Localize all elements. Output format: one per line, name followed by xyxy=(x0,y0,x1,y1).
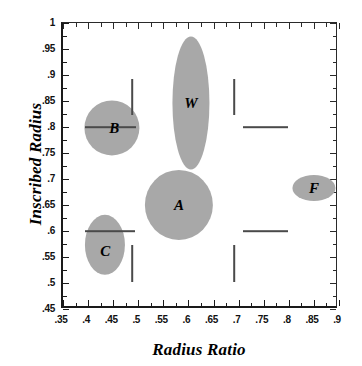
y-axis-minor-tick xyxy=(63,244,67,245)
x-axis-minor-tick xyxy=(126,303,127,307)
x-axis-tick xyxy=(214,23,215,29)
y-axis-tick-label: .8 xyxy=(47,121,55,132)
vertical-range-bar xyxy=(131,245,133,282)
x-axis-minor-tick xyxy=(201,23,202,27)
x-axis-tick-label: .7 xyxy=(233,314,241,325)
x-axis-tick xyxy=(63,300,64,306)
x-axis-tick xyxy=(188,23,189,29)
x-axis-tick xyxy=(239,300,240,306)
y-axis-tick xyxy=(330,153,336,154)
x-axis-tick-label: .4 xyxy=(82,314,90,325)
x-axis-tick xyxy=(214,300,215,306)
y-axis-tick xyxy=(63,75,69,76)
y-axis-tick-label: .5 xyxy=(47,277,55,288)
x-axis-tick-label: .55 xyxy=(155,314,168,325)
x-axis-minor-tick xyxy=(176,23,177,27)
y-axis-tick xyxy=(330,309,336,310)
y-axis-tick xyxy=(63,101,69,102)
vertical-range-bar xyxy=(233,245,235,282)
data-region-label-a: A xyxy=(174,197,184,214)
x-axis-tick xyxy=(264,300,265,306)
y-axis-minor-tick xyxy=(63,140,67,141)
x-axis-minor-tick xyxy=(276,303,277,307)
x-axis-tick-label: .5 xyxy=(132,314,140,325)
y-axis-minor-tick xyxy=(333,36,337,37)
y-axis-minor-tick xyxy=(63,62,67,63)
y-axis-minor-tick xyxy=(63,218,67,219)
x-axis-tick-label: .85 xyxy=(305,314,318,325)
y-axis-tick xyxy=(330,283,336,284)
y-axis-tick xyxy=(63,205,69,206)
y-axis-tick-label: .95 xyxy=(42,43,55,54)
y-axis-tick xyxy=(63,153,69,154)
y-axis-tick xyxy=(63,283,69,284)
data-region-label-c: C xyxy=(100,243,110,260)
y-axis-tick-label: .6 xyxy=(47,225,55,236)
y-axis-minor-tick xyxy=(333,296,337,297)
x-axis-tick xyxy=(314,300,315,306)
y-axis-minor-tick xyxy=(333,166,337,167)
y-axis-tick xyxy=(63,231,69,232)
x-axis-minor-tick xyxy=(176,303,177,307)
x-axis-tick xyxy=(239,23,240,29)
x-axis-minor-tick xyxy=(251,303,252,307)
x-axis-minor-tick xyxy=(151,303,152,307)
horizontal-range-bar xyxy=(85,230,135,232)
y-axis-minor-tick xyxy=(333,62,337,63)
x-axis-minor-tick xyxy=(226,303,227,307)
y-axis-tick xyxy=(63,257,69,258)
x-axis-minor-tick xyxy=(301,23,302,27)
y-axis-tick xyxy=(330,49,336,50)
y-axis-tick xyxy=(330,127,336,128)
x-axis-tick xyxy=(163,300,164,306)
y-axis-tick xyxy=(63,127,69,128)
x-axis-minor-tick xyxy=(301,303,302,307)
x-axis-minor-tick xyxy=(126,23,127,27)
x-axis-minor-tick xyxy=(326,303,327,307)
x-axis-tick xyxy=(339,300,340,306)
x-axis-minor-tick xyxy=(101,23,102,27)
x-axis-minor-tick xyxy=(76,303,77,307)
y-axis-tick xyxy=(63,179,69,180)
data-region-label-b: B xyxy=(109,119,119,136)
x-axis-tick xyxy=(188,300,189,306)
y-axis-minor-tick xyxy=(63,296,67,297)
x-axis-tick xyxy=(88,23,89,29)
vertical-range-bar xyxy=(233,79,235,114)
y-axis-minor-tick xyxy=(333,140,337,141)
x-axis-minor-tick xyxy=(226,23,227,27)
y-axis-tick xyxy=(330,257,336,258)
x-axis-tick-label: .6 xyxy=(183,314,191,325)
x-axis-tick xyxy=(289,300,290,306)
x-axis-tick-label: .75 xyxy=(255,314,268,325)
y-axis-tick xyxy=(330,205,336,206)
y-axis-tick-label: .75 xyxy=(42,147,55,158)
y-axis-tick xyxy=(330,23,336,24)
y-axis-tick-label: .7 xyxy=(47,173,55,184)
y-axis-minor-tick xyxy=(333,270,337,271)
y-axis-minor-tick xyxy=(333,244,337,245)
y-axis-tick-label: 1 xyxy=(50,17,55,28)
x-axis-tick-label: .35 xyxy=(54,314,67,325)
scatter-plot-figure: Inscribed Radius Radius Ratio .35.4.45.5… xyxy=(0,0,362,366)
x-axis-tick xyxy=(138,300,139,306)
data-region-label-f: F xyxy=(309,179,319,196)
y-axis-tick-label: .45 xyxy=(42,303,55,314)
y-axis-minor-tick xyxy=(63,36,67,37)
x-axis-tick-label: .45 xyxy=(105,314,118,325)
y-axis-tick xyxy=(330,231,336,232)
x-axis-minor-tick xyxy=(76,23,77,27)
x-axis-tick-label: .8 xyxy=(283,314,291,325)
horizontal-range-bar xyxy=(243,126,288,128)
x-axis-minor-tick xyxy=(201,303,202,307)
x-axis-tick xyxy=(113,23,114,29)
x-axis-minor-tick xyxy=(276,23,277,27)
y-axis-minor-tick xyxy=(333,218,337,219)
x-axis-tick-label: .65 xyxy=(205,314,218,325)
x-axis-tick xyxy=(88,300,89,306)
y-axis-minor-tick xyxy=(63,166,67,167)
y-axis-tick-label: .9 xyxy=(47,69,55,80)
y-axis-minor-tick xyxy=(333,114,337,115)
x-axis-title: Radius Ratio xyxy=(61,340,337,360)
x-axis-minor-tick xyxy=(101,303,102,307)
